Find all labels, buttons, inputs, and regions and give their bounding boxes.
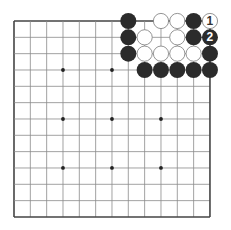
star-point bbox=[61, 117, 65, 121]
black-stone bbox=[153, 62, 169, 78]
star-point bbox=[61, 166, 65, 170]
white-stone bbox=[137, 30, 152, 45]
star-point bbox=[159, 166, 163, 170]
star-point bbox=[61, 68, 65, 72]
black-stone: 2 bbox=[202, 29, 218, 45]
white-stone bbox=[137, 46, 152, 61]
black-stone bbox=[137, 62, 153, 78]
star-point bbox=[110, 166, 114, 170]
move-number-label: 1 bbox=[207, 14, 214, 28]
black-stone bbox=[186, 13, 202, 29]
move-number-label: 2 bbox=[207, 30, 214, 44]
black-stone bbox=[169, 62, 185, 78]
white-stone bbox=[170, 13, 185, 28]
white-stone: 1 bbox=[202, 13, 217, 28]
black-stone bbox=[186, 29, 202, 45]
black-stone bbox=[202, 46, 218, 62]
white-stone bbox=[186, 46, 201, 61]
go-board[interactable]: 12 bbox=[0, 0, 231, 230]
stones-layer: 12 bbox=[120, 13, 218, 78]
black-stone bbox=[202, 62, 218, 78]
star-point bbox=[159, 117, 163, 121]
white-stone bbox=[153, 46, 168, 61]
white-stone bbox=[170, 30, 185, 45]
white-stone bbox=[170, 46, 185, 61]
black-stone bbox=[120, 13, 136, 29]
black-stone bbox=[120, 46, 136, 62]
star-point bbox=[110, 68, 114, 72]
star-point bbox=[110, 117, 114, 121]
white-stone bbox=[153, 13, 168, 28]
black-stone bbox=[120, 29, 136, 45]
black-stone bbox=[186, 62, 202, 78]
